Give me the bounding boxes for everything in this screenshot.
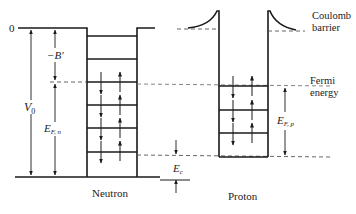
zero-label: 0 — [9, 22, 15, 34]
proton-well — [188, 11, 296, 157]
v0-label: V0 — [24, 100, 35, 116]
coulomb-barrier-label-line1: Coulomb — [312, 10, 351, 21]
neutron-spin-arrows — [101, 72, 120, 163]
proton-caption: Proton — [228, 190, 258, 202]
neutron-fermi-label: EF, n — [43, 122, 62, 136]
neutron-caption: Neutron — [92, 187, 129, 199]
nuclear-potential-well-diagram: 0 V0 −B′ — [0, 0, 356, 214]
diagram-canvas: 0 V0 −B′ — [0, 0, 356, 214]
binding-energy-label: −B′ — [47, 49, 64, 61]
coulomb-energy-label: Ec — [172, 162, 184, 176]
proton-fermi-label: EF, p — [276, 114, 295, 128]
neutron-well — [18, 28, 155, 177]
fermi-energy-label-line2: energy — [310, 87, 339, 98]
fermi-energy-label-line1: Fermi — [310, 75, 335, 86]
coulomb-barrier-label-line2: barrier — [312, 22, 340, 33]
